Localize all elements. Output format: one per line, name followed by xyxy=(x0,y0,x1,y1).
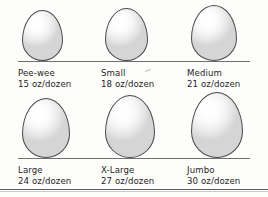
egg-label-pee-wee: Pee-wee 15 oz/dozen xyxy=(18,68,71,90)
egg-shape xyxy=(105,8,148,61)
egg-label-large: Large 24 oz/dozen xyxy=(18,165,71,187)
egg-row-bottom: Large 24 oz/dozen X-Large 27 oz/dozen Ju… xyxy=(0,97,268,190)
egg-cell-pee-wee: Pee-wee 15 oz/dozen xyxy=(18,0,102,97)
egg-size-name: Pee-wee xyxy=(18,68,71,79)
egg-cell-large: Large 24 oz/dozen xyxy=(18,97,102,194)
egg-size-name: Large xyxy=(18,165,71,176)
egg-graphic-small xyxy=(105,8,148,61)
egg-graphic-x-large xyxy=(105,95,155,158)
egg-size-weight: 30 oz/dozen xyxy=(187,176,240,187)
egg-size-name: Medium xyxy=(187,68,240,79)
egg-size-weight: 24 oz/dozen xyxy=(18,176,71,187)
egg-size-weight: 21 oz/dozen xyxy=(187,79,240,90)
egg-size-weight: 18 oz/dozen xyxy=(101,79,154,90)
egg-label-medium: Medium 21 oz/dozen xyxy=(187,68,240,90)
egg-cell-jumbo: Jumbo 30 oz/dozen xyxy=(187,97,267,194)
egg-shape xyxy=(191,92,243,158)
egg-size-name: X-Large xyxy=(101,165,154,176)
egg-cell-medium: Medium 21 oz/dozen xyxy=(187,0,267,97)
egg-shape xyxy=(22,10,63,61)
egg-cell-small: Small 18 oz/dozen xyxy=(101,0,187,97)
egg-shape xyxy=(105,95,155,158)
egg-size-chart: Pee-wee 15 oz/dozen Small 18 oz/dozen Me… xyxy=(0,0,268,197)
bottom-divider-shadow xyxy=(0,191,268,192)
egg-graphic-pee-wee xyxy=(22,10,63,61)
egg-graphic-jumbo xyxy=(191,92,243,158)
egg-size-weight: 27 oz/dozen xyxy=(101,176,154,187)
egg-size-name: Jumbo xyxy=(187,165,240,176)
egg-size-weight: 15 oz/dozen xyxy=(18,79,71,90)
bottom-divider xyxy=(0,189,268,190)
egg-cell-x-large: X-Large 27 oz/dozen xyxy=(101,97,187,194)
egg-row-top: Pee-wee 15 oz/dozen Small 18 oz/dozen Me… xyxy=(0,0,268,97)
egg-shape xyxy=(22,98,70,158)
egg-graphic-large xyxy=(22,98,70,158)
egg-label-jumbo: Jumbo 30 oz/dozen xyxy=(187,165,240,187)
egg-shape xyxy=(191,5,237,61)
egg-label-x-large: X-Large 27 oz/dozen xyxy=(101,165,154,187)
egg-graphic-medium xyxy=(191,5,237,61)
